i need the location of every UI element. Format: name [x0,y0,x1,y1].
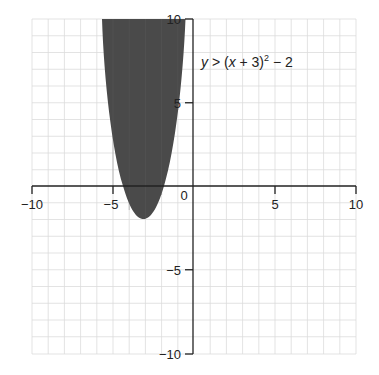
inequality-label: y > (x + 3)2 − 2 [200,53,293,70]
x-tick-5: 5 [271,197,278,212]
x-tick-neg10: −10 [21,197,43,212]
y-tick-neg10: −10 [159,347,181,362]
y-tick-10: 10 [167,12,181,27]
origin-label: 0 [180,188,187,203]
y-tick-neg5: −5 [166,263,181,278]
x-tick-10: 10 [349,197,363,212]
coordinate-plane: −10 −5 0 5 10 10 5 −5 −10 y > (x + 3)2 −… [0,0,379,375]
y-tick-5: 5 [174,96,181,111]
x-tick-neg5: −5 [104,197,119,212]
shaded-region [102,19,186,219]
